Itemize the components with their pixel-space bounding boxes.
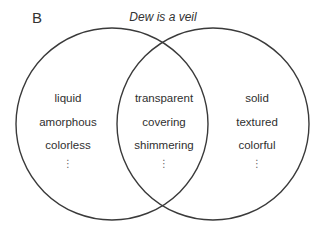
overlap-region: transparent covering shimmering ⋮: [114, 87, 214, 180]
ellipsis-icon: ⋮: [114, 158, 214, 180]
region-item: transparent: [114, 87, 214, 111]
left-only-region: liquid amorphous colorless ⋮: [18, 87, 118, 180]
region-item: colorless: [18, 134, 118, 158]
right-only-region: solid textured colorful ⋮: [207, 87, 307, 180]
region-item: colorful: [207, 134, 307, 158]
region-item: amorphous: [18, 111, 118, 135]
region-item: liquid: [18, 87, 118, 111]
ellipsis-icon: ⋮: [18, 158, 118, 180]
region-item: covering: [114, 111, 214, 135]
region-item: shimmering: [114, 134, 214, 158]
region-item: textured: [207, 111, 307, 135]
ellipsis-icon: ⋮: [207, 158, 307, 180]
region-item: solid: [207, 87, 307, 111]
